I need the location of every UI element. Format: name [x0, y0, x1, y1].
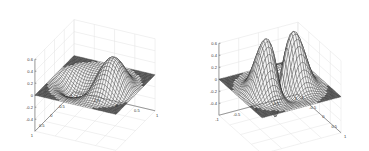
surface-plot-left: 0.60.40.20-0.2-0.410.50-0.5-1-1-0.500.51 [0, 0, 184, 151]
svg-text:0.2: 0.2 [27, 81, 33, 86]
surface-plot-right-canvas: 0.60.40.20-0.2-0.4-1-0.500.51-1-0.500.51 [185, 0, 369, 151]
svg-text:-0.5: -0.5 [58, 104, 66, 109]
svg-text:0.5: 0.5 [331, 124, 337, 129]
svg-text:1: 1 [31, 133, 34, 138]
svg-text:0.2: 0.2 [211, 65, 217, 70]
svg-text:-0.2: -0.2 [210, 89, 218, 94]
svg-text:-0.5: -0.5 [309, 105, 317, 110]
svg-text:0: 0 [322, 114, 325, 119]
surface-mesh [35, 56, 155, 115]
svg-text:0: 0 [31, 93, 34, 98]
svg-text:0.5: 0.5 [39, 123, 45, 128]
svg-text:0.4: 0.4 [27, 69, 33, 74]
svg-text:-0.4: -0.4 [26, 117, 34, 122]
svg-text:1: 1 [156, 113, 159, 118]
svg-text:-0.2: -0.2 [26, 105, 34, 110]
svg-text:-0.5: -0.5 [93, 98, 101, 103]
svg-text:-0.5: -0.5 [233, 112, 241, 117]
svg-text:0: 0 [50, 113, 53, 118]
surface-plot-left-canvas: 0.60.40.20-0.2-0.410.50-0.5-1-1-0.500.51 [0, 0, 184, 151]
svg-text:0.5: 0.5 [273, 101, 279, 106]
svg-text:-1: -1 [215, 117, 219, 122]
surface-plot-right: 0.60.40.20-0.2-0.4-1-0.500.51-1-0.500.51 [185, 0, 369, 151]
svg-text:0.6: 0.6 [211, 41, 217, 46]
svg-text:-0.4: -0.4 [210, 101, 218, 106]
svg-text:0.6: 0.6 [27, 57, 33, 62]
svg-text:0.4: 0.4 [211, 53, 217, 58]
svg-text:0.5: 0.5 [134, 108, 140, 113]
svg-text:0: 0 [215, 77, 218, 82]
svg-text:1: 1 [344, 134, 347, 139]
